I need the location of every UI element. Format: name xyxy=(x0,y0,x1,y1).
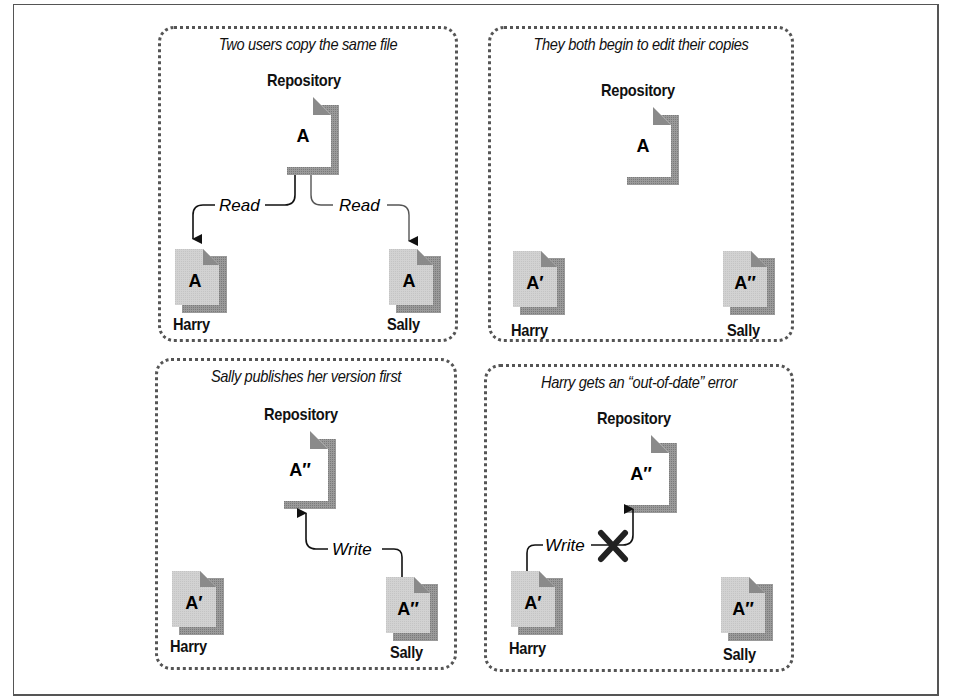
document-version-label: A″ xyxy=(734,273,756,293)
sally-label: Sally xyxy=(390,643,423,663)
sally-document-icon: A″ xyxy=(721,577,775,643)
sally-document-icon: A″ xyxy=(723,251,777,317)
repository-label: Repository xyxy=(267,71,341,91)
document-version-label: A′ xyxy=(526,273,543,293)
document-version-label: A xyxy=(403,271,416,291)
x-mark-error-icon xyxy=(601,533,625,559)
panel-caption: Two users copy the same file xyxy=(182,35,435,55)
panel-copy: Two users copy the same file Repository … xyxy=(158,26,458,342)
panel-edit: They both begin to edit their copies Rep… xyxy=(488,26,794,342)
panel-caption: Sally publishes her version first xyxy=(179,367,434,387)
document-version-label: A″ xyxy=(289,460,311,480)
panel-caption: They both begin to edit their copies xyxy=(512,35,770,55)
harry-document-icon: A xyxy=(175,249,229,315)
repository-label: Repository xyxy=(601,81,675,101)
sally-label: Sally xyxy=(727,321,760,341)
panel-caption: Harry gets an “out-of-date” error xyxy=(508,373,769,393)
document-version-label: A xyxy=(297,126,310,146)
repository-label: Repository xyxy=(597,409,671,429)
harry-label: Harry xyxy=(173,315,210,335)
panel-out-of-date-error: Harry gets an “out-of-date” error Reposi… xyxy=(484,364,794,672)
document-version-label: A xyxy=(189,271,202,291)
harry-document-icon: A′ xyxy=(513,251,567,317)
repository-label: Repository xyxy=(264,405,338,425)
read-label: Read xyxy=(339,196,380,215)
harry-label: Harry xyxy=(509,639,546,659)
document-version-label: A″ xyxy=(630,464,652,484)
read-label: Read xyxy=(219,196,260,215)
repository-document-icon: A xyxy=(619,107,681,189)
write-label: Write xyxy=(545,536,585,555)
harry-label: Harry xyxy=(170,637,207,657)
figure-frame xyxy=(13,4,939,696)
harry-document-icon: A′ xyxy=(172,571,226,637)
sally-document-icon: A″ xyxy=(386,577,440,643)
harry-label: Harry xyxy=(511,321,548,341)
document-version-label: A′ xyxy=(185,593,202,613)
harry-document-icon: A′ xyxy=(511,571,565,637)
repository-document-icon: A xyxy=(279,97,341,179)
repository-document-icon: A″ xyxy=(276,431,338,513)
write-label: Write xyxy=(332,540,372,559)
panel-publish: Sally publishes her version first Reposi… xyxy=(155,358,457,670)
document-version-label: A xyxy=(637,136,650,156)
repository-document-icon: A″ xyxy=(617,435,679,517)
document-version-label: A″ xyxy=(732,599,754,619)
document-version-label: A″ xyxy=(397,599,419,619)
document-version-label: A′ xyxy=(524,593,541,613)
sally-label: Sally xyxy=(723,645,756,665)
sally-document-icon: A xyxy=(389,249,443,315)
sally-label: Sally xyxy=(387,315,420,335)
